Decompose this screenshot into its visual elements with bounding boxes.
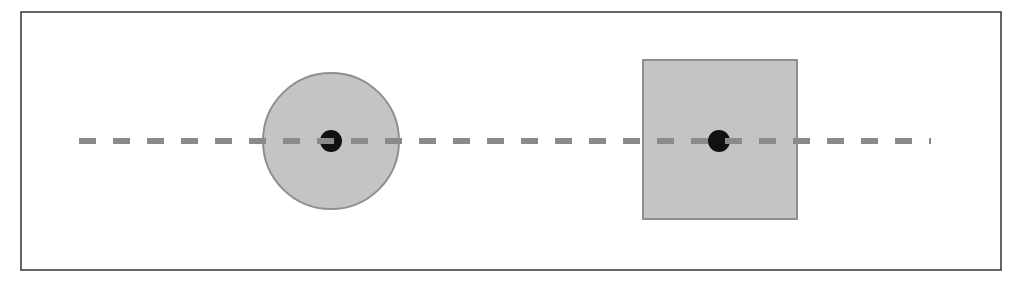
diagram-canvas [0,0,1021,285]
frame-border [21,12,1001,270]
